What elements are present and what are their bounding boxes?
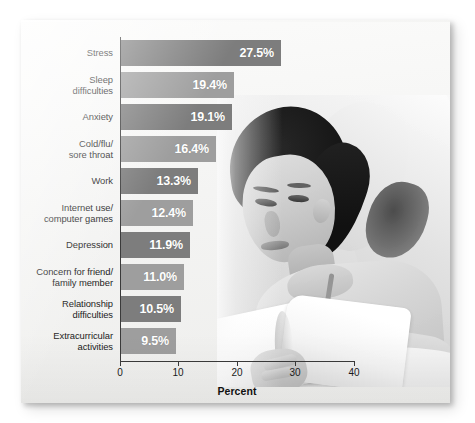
bar-value-label: 27.5% — [240, 46, 274, 60]
bar-cold-flu-sore-throat: 16.4% — [120, 136, 216, 162]
bar-value-label: 13.3% — [157, 174, 191, 188]
category-label: Anxiety — [21, 101, 113, 133]
bar-value-label: 9.5% — [141, 334, 169, 348]
card-top-edge — [21, 20, 450, 22]
x-tick-mark — [354, 361, 355, 366]
category-label: Sleep difficulties — [21, 69, 113, 101]
category-label: Stress — [21, 37, 113, 69]
category-label: Concern for friend/ family member — [21, 261, 113, 293]
bar-internet-use-computer-games: 12.4% — [120, 200, 193, 226]
bar-chart: Stress 27.5% Sleep difficulties 19.4% An… — [21, 20, 450, 403]
bar-work: 13.3% — [120, 168, 198, 194]
category-label: Work — [21, 165, 113, 197]
x-tick-mark — [237, 361, 238, 366]
figure-root: Stress 27.5% Sleep difficulties 19.4% An… — [0, 0, 475, 423]
x-tick-label: 30 — [289, 367, 300, 378]
bar-value-label: 11.0% — [143, 270, 177, 284]
bar-anxiety: 19.1% — [120, 104, 232, 130]
category-label: Internet use/ computer games — [21, 197, 113, 229]
bar-depression: 11.9% — [120, 232, 190, 258]
bar-value-label: 19.1% — [191, 110, 225, 124]
bar-relationship-difficulties: 10.5% — [120, 296, 181, 322]
bar-concern-for-friend-family-member: 11.0% — [120, 264, 184, 290]
x-tick-label: 10 — [172, 367, 183, 378]
bar-value-label: 10.5% — [140, 302, 174, 316]
x-tick-label: 40 — [348, 367, 359, 378]
category-label: Cold/flu/ sore throat — [21, 133, 113, 165]
bar-extracurricular-activities: 9.5% — [120, 328, 176, 354]
category-label: Extracurricular activities — [21, 325, 113, 357]
bar-value-label: 12.4% — [152, 206, 186, 220]
x-axis-title: Percent — [120, 385, 354, 397]
x-tick-label: 0 — [117, 367, 123, 378]
figure-card: Stress 27.5% Sleep difficulties 19.4% An… — [21, 20, 450, 403]
x-tick-mark — [295, 361, 296, 366]
x-tick-mark — [120, 361, 121, 366]
x-tick-label: 20 — [231, 367, 242, 378]
bar-value-label: 16.4% — [175, 142, 209, 156]
bar-value-label: 11.9% — [149, 238, 183, 252]
x-tick-mark — [178, 361, 179, 366]
y-axis-line — [120, 37, 121, 362]
bar-value-label: 19.4% — [193, 78, 227, 92]
bar-sleep-difficulties: 19.4% — [120, 72, 234, 98]
category-label: Relationship difficulties — [21, 293, 113, 325]
bar-stress: 27.5% — [120, 40, 281, 66]
category-label: Depression — [21, 229, 113, 261]
